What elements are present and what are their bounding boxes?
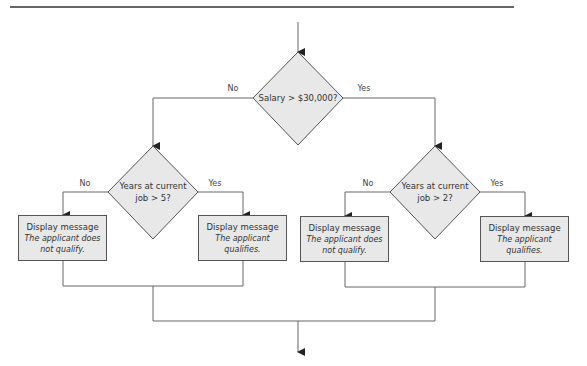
- salary-no-label: No: [228, 84, 239, 93]
- process-box-qualifies-right: Display message The applicant qualifies.: [480, 216, 569, 262]
- decision-years-2-label: Years at current job > 2?: [401, 180, 468, 204]
- decision-years-5-label: Years at current job > 5?: [119, 180, 186, 204]
- salary-yes-label: Yes: [358, 84, 371, 93]
- no-branch-connector: [153, 98, 253, 146]
- years5-yes-label: Yes: [209, 179, 222, 188]
- process-box-not-qualify-right: Display message The applicant does not q…: [300, 216, 389, 262]
- process-box-not-qualify-left: Display message The applicant does not q…: [18, 215, 107, 261]
- decision-salary-label: Salary > $30,000?: [259, 92, 338, 104]
- years2-yes-label: Yes: [491, 179, 504, 188]
- years5-no-label: No: [80, 179, 91, 188]
- flowchart-canvas: Salary > $30,000? No Yes Years at curren…: [0, 0, 587, 366]
- process-box-qualifies-left: Display message The applicant qualifies.: [198, 215, 287, 261]
- years2-no-label: No: [363, 179, 374, 188]
- yes-branch-connector: [343, 98, 435, 146]
